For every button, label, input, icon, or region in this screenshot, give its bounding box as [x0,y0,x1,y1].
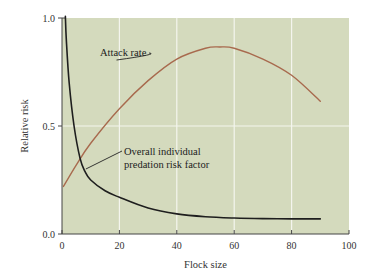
x-tick-label: 0 [60,240,65,251]
y-tick-label: 0.0 [43,229,56,240]
y-tick-label: 0.5 [43,121,56,132]
x-tick-label: 20 [114,240,124,251]
y-tick-label: 1.0 [43,13,56,24]
x-axis-label: Flock size [184,259,227,270]
annotation-risk-factor-line: Overall individual [124,146,201,157]
x-tick-label: 60 [229,240,239,251]
annotation-risk-factor-line: predation risk factor [124,159,210,170]
x-tick-label: 100 [342,240,357,251]
x-tick-label: 40 [172,240,182,251]
x-tick-label: 80 [287,240,297,251]
y-axis-label: Relative risk [19,99,30,153]
chart: 0204060801000.00.51.0 Attack rateOverall… [0,0,372,279]
